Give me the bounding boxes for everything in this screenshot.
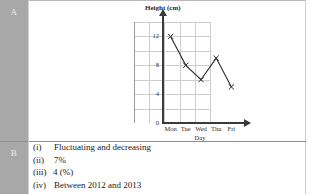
answer-text: Between 2012 and 2013 [54,180,141,190]
answer-item: (iii)4 (%) [29,167,305,180]
answers-list: (i)Fluctuating and decreasing(ii)7%(iii)… [29,142,305,194]
data-point-marker [198,77,203,82]
answer-number: (ii) [33,155,53,165]
row-label-a: A [0,7,28,17]
data-point-marker [168,34,173,39]
data-point-marker [214,55,219,60]
answer-item: (i)Fluctuating and decreasing [29,142,305,155]
answer-text: Fluctuating and decreasing [54,142,151,152]
answer-text: 7% [54,155,66,165]
row-label-a-cell: A [0,0,28,141]
answer-number: (i) [33,142,53,152]
answer-item: (iv)Between 2012 and 2013 [29,180,305,193]
answer-text: 4 (%) [53,167,73,177]
table-right-border [305,0,306,194]
line-chart: Height (cm) 04812 MonTueWedThuFri Day [29,1,305,141]
answer-item: (ii)7% [29,155,305,168]
data-point-marker [183,63,188,68]
answer-number: (iv) [33,180,53,190]
data-series [29,1,305,141]
row-label-b-cell: B [0,142,28,194]
answer-key-table: A B Height (cm) 04812 MonTueWedThuFri Da… [0,0,311,194]
row-label-b: B [0,148,28,158]
answer-number: (iii) [33,167,53,177]
data-point-marker [229,84,234,89]
